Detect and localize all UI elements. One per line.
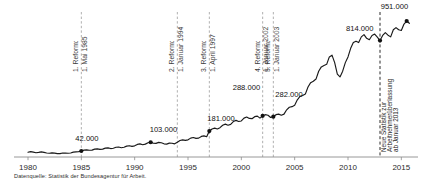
x-tick-label-1995: 1995 <box>179 163 197 172</box>
reform-label-reform-1-line2: 1. Mai 1985 <box>81 36 88 72</box>
x-tick-label-2005: 2005 <box>286 163 304 172</box>
x-tick-label-2015: 2015 <box>392 163 410 172</box>
reform-label-reform-3-line1: 3. Reform: <box>200 40 207 72</box>
value-label-3: 288.000 <box>233 83 260 92</box>
reform-marker-labels: 1. Reform:1. Mai 19852. Reform:1. Januar… <box>72 26 279 72</box>
value-label-4: 282.000 <box>275 90 302 99</box>
x-tick-label-1985: 1985 <box>72 163 90 172</box>
x-tick-label-1980: 1980 <box>19 163 37 172</box>
data-point-marker <box>79 149 83 153</box>
data-point-marker <box>261 114 265 118</box>
x-tick-label-1990: 1990 <box>126 163 144 172</box>
data-point-marker <box>378 38 382 42</box>
reform-label-reform-4-line1: 4. Reform: <box>254 40 261 72</box>
reform-label-reform-5-line1: 5. Reform: <box>264 40 271 72</box>
data-point-marker <box>405 19 409 23</box>
x-tick-label-2000: 2000 <box>232 163 250 172</box>
x-axis <box>14 157 418 160</box>
source-note: Datenquelle: Statistik der Bundesagentur… <box>14 173 146 179</box>
chart-plot-area: 42.000103.000181.000288.000282.000814.00… <box>0 0 429 190</box>
statistics-marker-label: Neue Statistik zurArbeitnehmerüberlassun… <box>380 78 399 152</box>
reform-label-reform-3-line2: 1. April 1997 <box>209 34 217 72</box>
x-tick-label-2010: 2010 <box>339 163 357 172</box>
data-point-marker <box>271 115 275 119</box>
value-label-5: 814.000 <box>346 24 373 33</box>
x-axis-tick-labels: 19801985199019952000200520102015 <box>19 163 411 172</box>
statistics-note-line3: ab Januar 2013 <box>392 107 399 152</box>
data-point-marker <box>207 129 211 133</box>
reform-label-reform-5-line2: 1. Januar 2003 <box>273 26 280 72</box>
reform-label-reform-1-line1: 1. Reform: <box>72 40 79 72</box>
value-label-2: 181.000 <box>207 114 234 123</box>
data-point-value-labels: 42.000103.000181.000288.000282.000814.00… <box>75 2 408 143</box>
zeitarbeit-line-chart: 42.000103.000181.000288.000282.000814.00… <box>0 0 429 190</box>
reform-label-reform-2-line1: 2. Reform: <box>168 40 175 72</box>
value-label-0: 42.000 <box>75 134 98 143</box>
data-point-marker <box>149 140 153 144</box>
value-label-6: 951.000 <box>381 2 408 11</box>
reform-label-reform-2-line2: 1. Januar 1994 <box>177 26 184 72</box>
value-label-1: 103.000 <box>150 125 177 134</box>
